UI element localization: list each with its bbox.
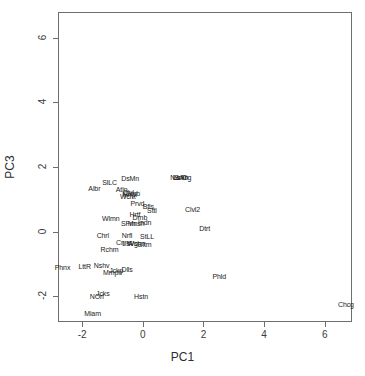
x-axis-tick <box>82 322 83 327</box>
data-point-label: SnDg <box>174 173 191 180</box>
y-axis-tick <box>53 296 58 297</box>
y-axis-title: PC3 <box>3 137 17 197</box>
data-point-label: Albr <box>88 184 100 191</box>
data-point-label: LttR <box>78 262 90 269</box>
data-point-label: Chcg <box>338 301 354 308</box>
data-point-label: DsMn <box>121 175 139 182</box>
x-axis-tick <box>325 322 326 327</box>
x-axis-tick-label: 4 <box>252 329 276 340</box>
data-point-label: Chrl <box>97 232 109 239</box>
y-axis-tick-label: 0 <box>37 223 48 239</box>
data-point-label: Rchm <box>101 246 119 253</box>
x-axis-title: PC1 <box>0 350 365 364</box>
y-axis-tick <box>53 38 58 39</box>
y-axis-tick <box>53 232 58 233</box>
x-axis-tick-label: 0 <box>131 329 155 340</box>
y-axis-tick-label: 6 <box>37 29 48 45</box>
data-point-label: Bltm <box>138 240 152 247</box>
plot-data-area: PhnxAlbrSlLCDsMnAtlnClvlClmbMnplWchtPrvd… <box>58 12 352 322</box>
data-point-label: Phld <box>212 273 226 280</box>
y-axis-tick-label: 4 <box>37 94 48 110</box>
data-point-label: Nshv <box>94 262 110 269</box>
x-axis-tick-label: 2 <box>191 329 215 340</box>
x-axis-tick <box>203 322 204 327</box>
y-axis-tick <box>53 102 58 103</box>
x-axis-tick <box>264 322 265 327</box>
data-point-label: Wcht <box>120 193 136 200</box>
y-axis-tick-label: -2 <box>37 288 48 304</box>
x-axis-tick <box>143 322 144 327</box>
data-point-label: Miam <box>84 309 101 316</box>
x-axis-tick-label: -2 <box>70 329 94 340</box>
data-point-label: Phnx <box>55 264 71 271</box>
y-axis-tick-label: 2 <box>37 159 48 175</box>
data-point-label: Indn <box>138 218 151 225</box>
data-point-label: Wlmn <box>102 215 120 222</box>
data-point-label: Hstn <box>134 293 148 300</box>
data-point-label: Jcks <box>96 289 110 296</box>
x-axis-tick-label: 6 <box>313 329 337 340</box>
data-point-label: Dlls <box>121 265 132 272</box>
scatter-plot-figure: PhnxAlbrSlLCDsMnAtlnClvlClmbMnplWchtPrvd… <box>0 0 365 376</box>
data-point-label: Clvl2 <box>185 205 200 212</box>
data-point-label: Dtrt <box>199 225 210 232</box>
y-axis-tick <box>53 167 58 168</box>
data-point-label: Sttl <box>147 207 157 214</box>
data-point-label: SlLC <box>102 179 117 186</box>
